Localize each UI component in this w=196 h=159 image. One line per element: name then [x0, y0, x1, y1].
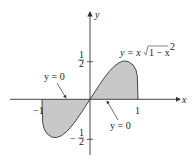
svg-text:2: 2: [79, 58, 84, 69]
graph-diagram: x y −1 1 1 2 − 1 2 y = x 1 − x 2 y = 0 y…: [0, 0, 196, 159]
annotation-y0-left: y = 0: [44, 71, 65, 82]
annotation-arrow-left: [57, 83, 66, 98]
curve-label: y = x 1 − x 2: [119, 41, 175, 58]
annotation-arrow-right: [107, 101, 118, 120]
svg-text:1 − x: 1 − x: [149, 47, 170, 58]
x-tick-label-neg1: −1: [33, 105, 44, 116]
y-tick-label-neg-half: − 1 2: [70, 127, 84, 147]
annotation-y0-right: y = 0: [110, 120, 131, 131]
y-axis-label: y: [94, 9, 100, 20]
x-axis-label: x: [181, 94, 187, 105]
svg-text:−: −: [70, 133, 76, 144]
svg-text:2: 2: [79, 136, 84, 147]
x-tick-label-1: 1: [135, 105, 140, 116]
svg-text:2: 2: [170, 41, 175, 52]
y-tick-label-half: 1 2: [78, 49, 84, 69]
svg-text:y = x: y = x: [119, 47, 141, 58]
